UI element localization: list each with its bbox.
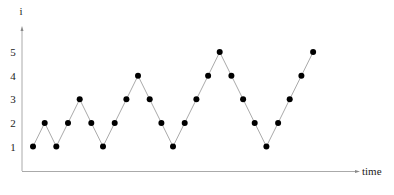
data-point [123,96,129,102]
y-tick-label: 2 [10,117,16,129]
series-line [33,52,313,146]
data-point [112,120,118,126]
data-point [240,96,246,102]
data-point [147,96,153,102]
line-chart: i time 12345 [0,0,394,195]
y-tick-label: 3 [10,93,16,105]
y-tick-label: 4 [10,70,16,82]
y-axis: i [19,5,23,171]
data-point [30,144,36,150]
data-point [228,73,234,79]
data-point [158,120,164,126]
y-tick-label: 5 [10,46,16,58]
y-axis-label: i [19,5,22,17]
data-point [77,96,83,102]
data-point [193,96,199,102]
data-point [217,49,223,55]
x-axis-label: time [362,165,382,177]
data-point [275,120,281,126]
data-point [53,144,59,150]
data-point [287,96,293,102]
data-point [263,144,269,150]
y-tick-label: 1 [10,141,16,153]
data-point [100,144,106,150]
x-axis: time [22,165,382,177]
data-point [310,49,316,55]
y-tick-labels: 12345 [10,46,16,152]
data-point [252,120,258,126]
data-point [205,73,211,79]
data-point [298,73,304,79]
data-point [182,120,188,126]
data-point [170,144,176,150]
data-point [42,120,48,126]
data-markers [30,49,316,149]
data-point [135,73,141,79]
data-point [65,120,71,126]
data-point [88,120,94,126]
